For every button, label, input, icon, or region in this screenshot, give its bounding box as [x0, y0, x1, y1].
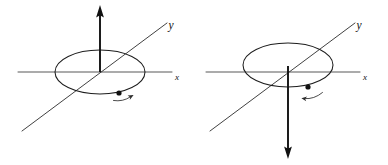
motion-direction-arrowhead-right-left	[128, 95, 134, 100]
particle-dot-right	[305, 84, 310, 89]
motion-direction-arc-right	[305, 93, 323, 99]
right-diagram: y x	[206, 19, 367, 159]
x-axis-label-right: x	[362, 72, 367, 82]
y-axis-label-right: y	[355, 19, 362, 32]
figure-root: y x y x	[0, 0, 388, 165]
figure-canvas: y x y x	[0, 0, 388, 165]
particle-dot-left	[116, 90, 121, 95]
x-axis-label-left: x	[174, 72, 179, 82]
y-axis-label-left: y	[167, 19, 174, 32]
y-axis-line-right	[210, 23, 355, 131]
left-diagram: y x	[18, 5, 179, 131]
motion-direction-arc-left	[114, 97, 131, 101]
y-axis-line-left	[22, 23, 167, 131]
